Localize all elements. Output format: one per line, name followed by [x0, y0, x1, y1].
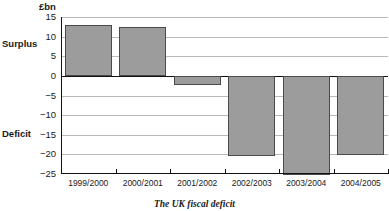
- y-tick-label: 15: [0, 11, 56, 22]
- x-label-2002-2003: 2002/2003: [225, 178, 280, 188]
- y-axis-line: [61, 17, 62, 174]
- x-label-2001-2002: 2001/2002: [170, 178, 225, 188]
- bar-2004-2005: [337, 76, 384, 155]
- y-tick-label: 10: [0, 31, 56, 42]
- bar-1999-2000: [65, 25, 112, 76]
- y-tick-label: −25: [0, 168, 56, 179]
- fiscal-deficit-bar-chart: £bn Surplus Deficit 151050−5−10−15−20−25…: [0, 0, 389, 211]
- bar-2000-2001: [119, 27, 166, 76]
- gridline-15: [62, 17, 388, 18]
- y-tick-label: −10: [0, 109, 56, 120]
- x-label-1999-2000: 1999/2000: [61, 178, 116, 188]
- figure-caption: The UK fiscal deficit: [0, 199, 389, 209]
- y-tick-label: 0: [0, 70, 56, 81]
- x-label-2000-2001: 2000/2001: [116, 178, 171, 188]
- y-tick-label: −15: [0, 129, 56, 140]
- plot-area: [61, 17, 388, 174]
- y-tick-label: 5: [0, 50, 56, 61]
- x-label-2003-2004: 2003/2004: [279, 178, 334, 188]
- y-tick-label: −20: [0, 148, 56, 159]
- x-axis-line: [61, 173, 388, 174]
- bar-2003-2004: [283, 76, 330, 175]
- bar-2002-2003: [228, 76, 275, 156]
- bar-2001-2002: [174, 76, 221, 85]
- x-label-2004-2005: 2004/2005: [334, 178, 389, 188]
- y-tick-label: −5: [0, 90, 56, 101]
